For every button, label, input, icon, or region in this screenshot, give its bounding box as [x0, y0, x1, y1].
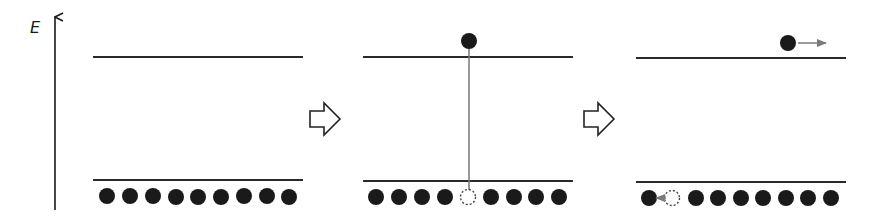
valence-electrons [99, 188, 297, 205]
panel-excitation [363, 33, 573, 205]
electron [236, 188, 252, 204]
electron [755, 190, 771, 206]
electron [800, 190, 816, 206]
electron [437, 189, 453, 205]
electron [528, 189, 544, 205]
electron [483, 189, 499, 205]
electron [733, 190, 749, 206]
electron [506, 189, 522, 205]
step-arrow-icon [310, 103, 340, 135]
electron [710, 190, 726, 206]
electron [168, 189, 184, 205]
hole [461, 190, 476, 205]
electron [190, 189, 206, 205]
electron [259, 188, 275, 204]
electron [778, 190, 794, 206]
electron [641, 190, 657, 206]
electron [823, 190, 839, 206]
panel-carrier-motion [636, 35, 846, 206]
panel-ground-state [93, 57, 303, 205]
electron [391, 189, 407, 205]
electron [414, 189, 430, 205]
excited-electron [461, 33, 477, 49]
electron [688, 190, 704, 206]
valence-electrons [641, 190, 839, 206]
electron [122, 188, 138, 204]
energy-axis-label: E [30, 18, 41, 37]
electron [281, 189, 297, 205]
energy-axis: E [30, 17, 55, 210]
band-diagram: E [0, 0, 877, 217]
valence-electrons [368, 189, 567, 205]
conduction-electron [780, 35, 796, 51]
electron [551, 189, 567, 205]
step-arrow-icon [584, 103, 614, 135]
electron [145, 188, 161, 204]
electron [99, 188, 115, 204]
electron [368, 189, 384, 205]
hole [665, 191, 680, 206]
electron [213, 189, 229, 205]
